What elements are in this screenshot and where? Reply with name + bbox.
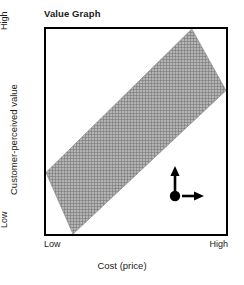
x-axis-low-label: Low xyxy=(44,239,61,249)
origin-dot-icon xyxy=(170,191,180,201)
x-axis-high-label: High xyxy=(209,239,228,249)
x-axis-title: Cost (price) xyxy=(0,260,244,271)
chart-title: Value Graph xyxy=(44,8,101,20)
y-axis-title: Customer-perceived value xyxy=(8,84,19,195)
right-arrow-icon xyxy=(182,191,204,200)
y-axis-low-label: Low xyxy=(0,211,9,228)
direction-indicator xyxy=(161,163,205,205)
value-graph-figure: Value Graph High Low Low High Customer-p… xyxy=(0,0,244,285)
y-axis-high-label: High xyxy=(0,11,9,30)
